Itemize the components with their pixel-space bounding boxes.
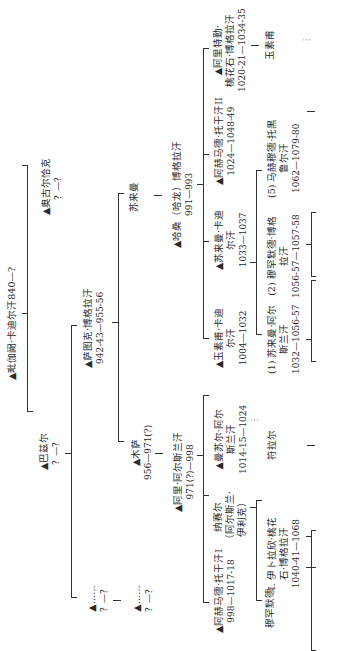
connector	[71, 325, 77, 326]
node-name: (5) 马赫穆德·托黑	[266, 119, 278, 199]
connector	[197, 184, 203, 185]
node-satuq: ▲萨图克·博格拉汗 942-43—955-56	[82, 288, 106, 368]
connector	[251, 45, 259, 46]
connector	[311, 361, 316, 362]
connector	[203, 395, 204, 602]
connector	[118, 441, 124, 442]
connector	[311, 530, 312, 650]
connector	[203, 495, 209, 496]
node-name: 穆罕默德	[264, 588, 276, 628]
node-yusuf-qadir: ▲玉素甫·卡迪 尔汗 1004—1032	[213, 308, 249, 368]
node-dates: 1062—1079-80	[290, 119, 302, 199]
node-dates: 1033—1037	[237, 210, 249, 270]
node-name: 石·博格拉汗	[278, 517, 290, 590]
node-nasr: 纳赛尔 （阿尔斯兰· 伊利克）	[212, 491, 248, 544]
connector	[203, 395, 209, 396]
node-unknown-1: ▲…… ？—？	[86, 585, 110, 612]
node-name: I. 伊卜拉欣·桃花	[266, 517, 278, 590]
node-dates: ？—？	[98, 585, 110, 612]
node-name: 拉汗	[278, 214, 290, 298]
connector	[311, 212, 312, 276]
node-suleiman-arslan: (1) 苏来曼·阿尔 斯兰汗 1032—1056-57	[266, 305, 302, 375]
connector	[311, 280, 312, 361]
node-ahmad-toghan-1: ▲阿赫马德·托干汗I 998—1017-18	[213, 549, 237, 633]
node-name: 尔汗	[225, 210, 237, 270]
node-name: ▲阿里·阿尔斯兰汗	[172, 432, 184, 512]
node-musa: ▲木萨 956—971(?)	[130, 425, 154, 480]
connector	[256, 170, 262, 171]
connector	[112, 322, 118, 323]
node-dates: 1032—1056-57	[290, 305, 302, 375]
connector	[118, 193, 124, 194]
connector	[306, 339, 311, 340]
node-dates: ？—？	[143, 585, 155, 612]
node-tughril: 符拉尔	[266, 430, 278, 460]
node-harun: ▲哈桑（哈龙）博格拉汗 991—993	[171, 141, 195, 248]
node-dates: 1004—1032	[237, 308, 249, 368]
node-name: （阿尔斯兰·	[224, 491, 236, 544]
genealogy-diagram: ▲毗伽阙·卡迪尔汗840—? ▲奥古尔恰克 ？—？ ▲巴兹尔 ？—？ ▲萨图克·…	[0, 0, 347, 651]
node-ibrahim: I. 伊卜拉欣·桃花 石·博格拉汗 1040-41—1068	[266, 517, 302, 590]
connector	[203, 48, 209, 49]
node-name: ▲哈桑（哈龙）博格拉汗	[171, 141, 183, 248]
connector	[306, 536, 311, 537]
connector	[256, 500, 257, 600]
node-dates: 1014-15—1024	[237, 405, 249, 474]
node-root: ▲毗伽阙·卡迪尔汗840—?	[6, 267, 18, 380]
node-name: 斯兰汗	[225, 405, 237, 474]
connector	[203, 338, 209, 339]
node-suleiman-1: 苏来曼	[128, 182, 140, 212]
node-name: 桃花石·博格拉汗	[224, 8, 236, 92]
connector	[65, 453, 71, 454]
connector	[22, 313, 27, 314]
connector	[155, 453, 163, 454]
connector	[22, 165, 28, 166]
node-name: 尔汗	[225, 308, 237, 368]
connector	[203, 602, 209, 603]
node-name: ▲阿里特勤·	[212, 8, 224, 92]
connector	[256, 334, 262, 335]
connector	[250, 262, 256, 263]
node-name: ▲……	[131, 585, 143, 612]
connector	[311, 276, 316, 277]
node-bazir: ▲巴兹尔 ？—？	[38, 433, 62, 470]
node-muhammad-bughra: (2) 穆罕默德·博格 拉汗 1056-57—1057-58	[266, 214, 302, 298]
connector	[306, 244, 311, 245]
node-mahmud-toghril: (5) 马赫穆德·托黑 鲁尔汗 1062—1079-80	[266, 119, 302, 199]
node-name: ▲阿赫马德·托干汗I	[213, 549, 225, 633]
node-dates: 998—1017-18	[225, 549, 237, 633]
connector	[256, 600, 262, 601]
connector	[154, 195, 162, 196]
connector	[203, 241, 209, 242]
node-name: ▲萨图克·博格拉汗	[82, 288, 94, 368]
connector	[250, 507, 256, 508]
connector	[203, 48, 204, 338]
node-name: ▲巴兹尔	[38, 433, 50, 470]
node-ali: ▲阿里·阿尔斯兰汗 971(?)—998	[172, 432, 196, 512]
connector	[27, 411, 33, 412]
connector	[307, 111, 315, 112]
node-name: (1) 苏来曼·阿尔	[266, 305, 278, 375]
ellipsis-icon: ⋮	[302, 36, 311, 44]
node-name: 玉素甫	[264, 30, 276, 60]
node-dates: ？—？	[52, 158, 64, 215]
node-name: ▲苏来曼·卡迪	[213, 210, 225, 270]
node-name: ▲阿赫马德·托干汗II	[213, 97, 225, 185]
connector	[118, 193, 119, 441]
node-name: 符拉尔	[266, 430, 278, 460]
connector	[203, 154, 209, 155]
node-name: (2) 穆罕默德·博格	[266, 214, 278, 298]
node-dates: 1056-57—1057-58	[290, 214, 302, 298]
node-unknown-2: ▲…… ？—？	[131, 585, 155, 612]
node-name: ▲木萨	[130, 425, 142, 480]
connector	[311, 212, 316, 213]
connector	[27, 165, 28, 411]
node-dates: 956—971(?)	[142, 425, 154, 480]
node-name: 鲁尔汗	[278, 119, 290, 199]
node-muhammad: 穆罕默德	[264, 588, 276, 628]
node-ali-tegin: ▲阿里特勤· 桃花石·博格拉汗 1020-21—1034-35	[212, 8, 248, 92]
connector	[197, 455, 203, 456]
connector	[307, 445, 315, 446]
connector	[306, 567, 311, 568]
node-ahmad-toghan-2: ▲阿赫马德·托干汗II 1024—1048-49	[213, 97, 237, 185]
